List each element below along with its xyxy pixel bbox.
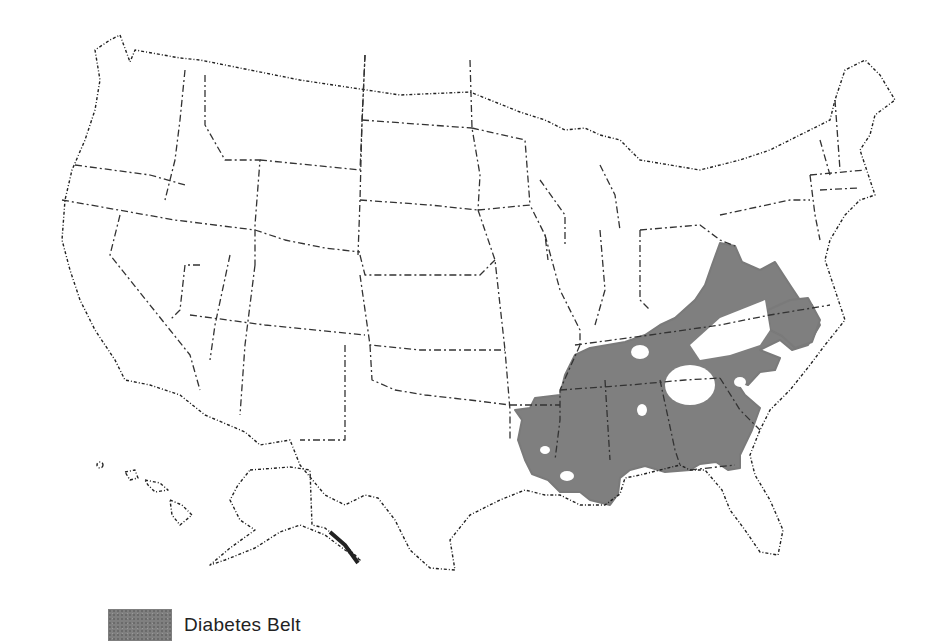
alaska-inset xyxy=(210,467,360,565)
hawaii-inset xyxy=(97,462,192,525)
legend-label: Diabetes Belt xyxy=(184,614,301,636)
diabetes-belt-region xyxy=(515,243,820,505)
map-legend: Diabetes Belt xyxy=(108,609,301,641)
diabetes-belt-swatch xyxy=(108,609,172,641)
us-map xyxy=(0,0,949,600)
